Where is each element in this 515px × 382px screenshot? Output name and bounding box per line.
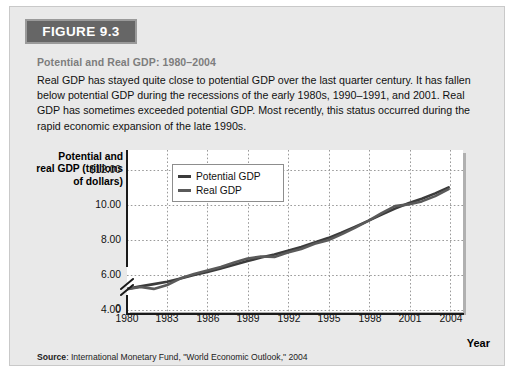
series-potential-gdp — [127, 187, 449, 289]
chart-legend: Potential GDP Real GDP — [172, 164, 284, 202]
y-axis-line — [126, 150, 128, 267]
legend-item-real-gdp: Real GDP — [178, 183, 283, 197]
x-axis-title: Year — [467, 337, 490, 349]
y-axis-break-icon — [120, 269, 136, 297]
gdp-line-chart: Potential and real GDP (trillions of dol… — [10, 7, 505, 366]
legend-swatch-icon — [178, 175, 191, 178]
y-axis-tick-label: $12.00 — [65, 164, 121, 175]
x-axis-tick-label: 2004 — [428, 313, 474, 324]
y-axis-tick-label: 8.00 — [65, 234, 121, 245]
legend-swatch-icon — [178, 189, 191, 192]
x-axis-tick-label: 1983 — [144, 313, 190, 324]
y-axis-tick-label: 10.00 — [65, 199, 121, 210]
source-note: Source: International Monetary Fund, "Wo… — [37, 352, 308, 362]
x-axis-tick-label: 2001 — [387, 313, 433, 324]
y-axis-tick-label: 6.00 — [65, 269, 121, 280]
legend-label: Real GDP — [196, 185, 242, 196]
x-axis-tick-label: 1989 — [225, 313, 271, 324]
figure-card: FIGURE 9.3 Potential and Real GDP: 1980–… — [9, 6, 505, 366]
y-axis-title-line-1: Potential and — [20, 151, 123, 163]
source-label: Source — [37, 352, 66, 362]
x-axis-tick-label: 1995 — [306, 313, 352, 324]
legend-label: Potential GDP — [196, 171, 261, 182]
y-axis-line-lower — [126, 295, 128, 315]
source-text: : International Monetary Fund, "World Ec… — [66, 352, 307, 362]
series-real-gdp — [127, 189, 449, 289]
legend-item-potential-gdp: Potential GDP — [178, 169, 283, 183]
y-axis-title-line-3: of dollars) — [20, 176, 123, 188]
